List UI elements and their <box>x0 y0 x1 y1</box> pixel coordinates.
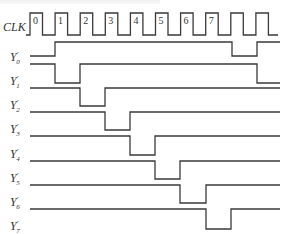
signal-label: Y′7 <box>10 219 20 234</box>
signal-waveform <box>30 161 280 179</box>
signal-label: Y′2 <box>10 98 20 114</box>
signal-label: Y′4 <box>10 147 20 163</box>
clock-pulse-number: 2 <box>83 15 88 26</box>
signal-row-y6: Y′6 <box>10 185 280 211</box>
signal-waveform <box>30 136 280 155</box>
timing-diagram: CLK 01234567 Y′0Y′1Y′2Y′3Y′4Y′5Y′6Y′7 <box>0 0 282 234</box>
signal-row-y2: Y′2 <box>10 88 280 114</box>
signal-row-y5: Y′5 <box>10 161 280 187</box>
clock-pulse-number: 1 <box>58 15 63 26</box>
signal-label: Y′1 <box>10 74 20 90</box>
clock-pulse-number: 5 <box>159 15 164 26</box>
signal-label: Y′0 <box>10 50 20 66</box>
signal-label: Y′3 <box>10 122 20 138</box>
signal-waveform <box>30 185 280 203</box>
signal-row-y4: Y′4 <box>10 136 280 163</box>
clock-pulse-numbers: 01234567 <box>33 15 214 26</box>
signal-label: Y′6 <box>10 195 20 211</box>
clock-pulse-number: 0 <box>33 15 38 26</box>
clock-pulse-number: 3 <box>108 15 113 26</box>
clock-row: CLK 01234567 <box>3 13 278 35</box>
signal-waveform <box>30 64 280 83</box>
clock-pulse-number: 7 <box>209 15 214 26</box>
signal-waveform <box>30 42 280 56</box>
signal-label: Y′5 <box>10 171 20 187</box>
signal-row-y0: Y′0 <box>10 42 280 66</box>
clock-pulse-number: 4 <box>133 15 138 26</box>
signal-waveform <box>30 112 280 130</box>
clock-pulse-number: 6 <box>184 15 189 26</box>
signal-waveform <box>30 88 280 106</box>
output-signals: Y′0Y′1Y′2Y′3Y′4Y′5Y′6Y′7 <box>10 42 280 234</box>
signal-waveform <box>30 209 280 229</box>
signal-row-y7: Y′7 <box>10 209 280 234</box>
clock-label: CLK <box>3 20 27 34</box>
signal-row-y3: Y′3 <box>10 112 280 138</box>
signal-row-y1: Y′1 <box>10 64 280 90</box>
clock-waveform <box>26 13 278 35</box>
